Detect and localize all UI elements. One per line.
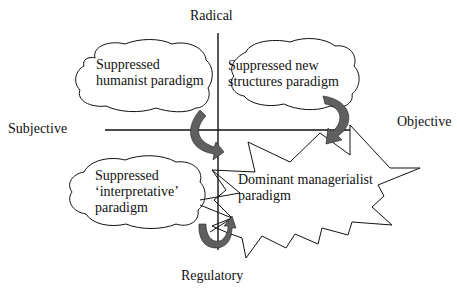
axis-label-objective: Objective [397, 114, 451, 130]
axis-label-subjective: Subjective [8, 121, 67, 137]
label-interpretative-paradigm: Suppressed ‘interpretative’ paradigm [95, 168, 179, 216]
axis-label-radical: Radical [190, 8, 233, 24]
paradigm-diagram [0, 0, 457, 288]
arrow-humanist-icon [191, 110, 224, 160]
axis-label-regulatory: Regulatory [181, 268, 243, 284]
label-humanist-paradigm: Suppressed humanist paradigm [96, 57, 204, 89]
label-new-structures-paradigm: Suppressed new structures paradigm [228, 58, 339, 90]
label-managerialist-paradigm: Dominant managerialist paradigm [238, 172, 373, 204]
